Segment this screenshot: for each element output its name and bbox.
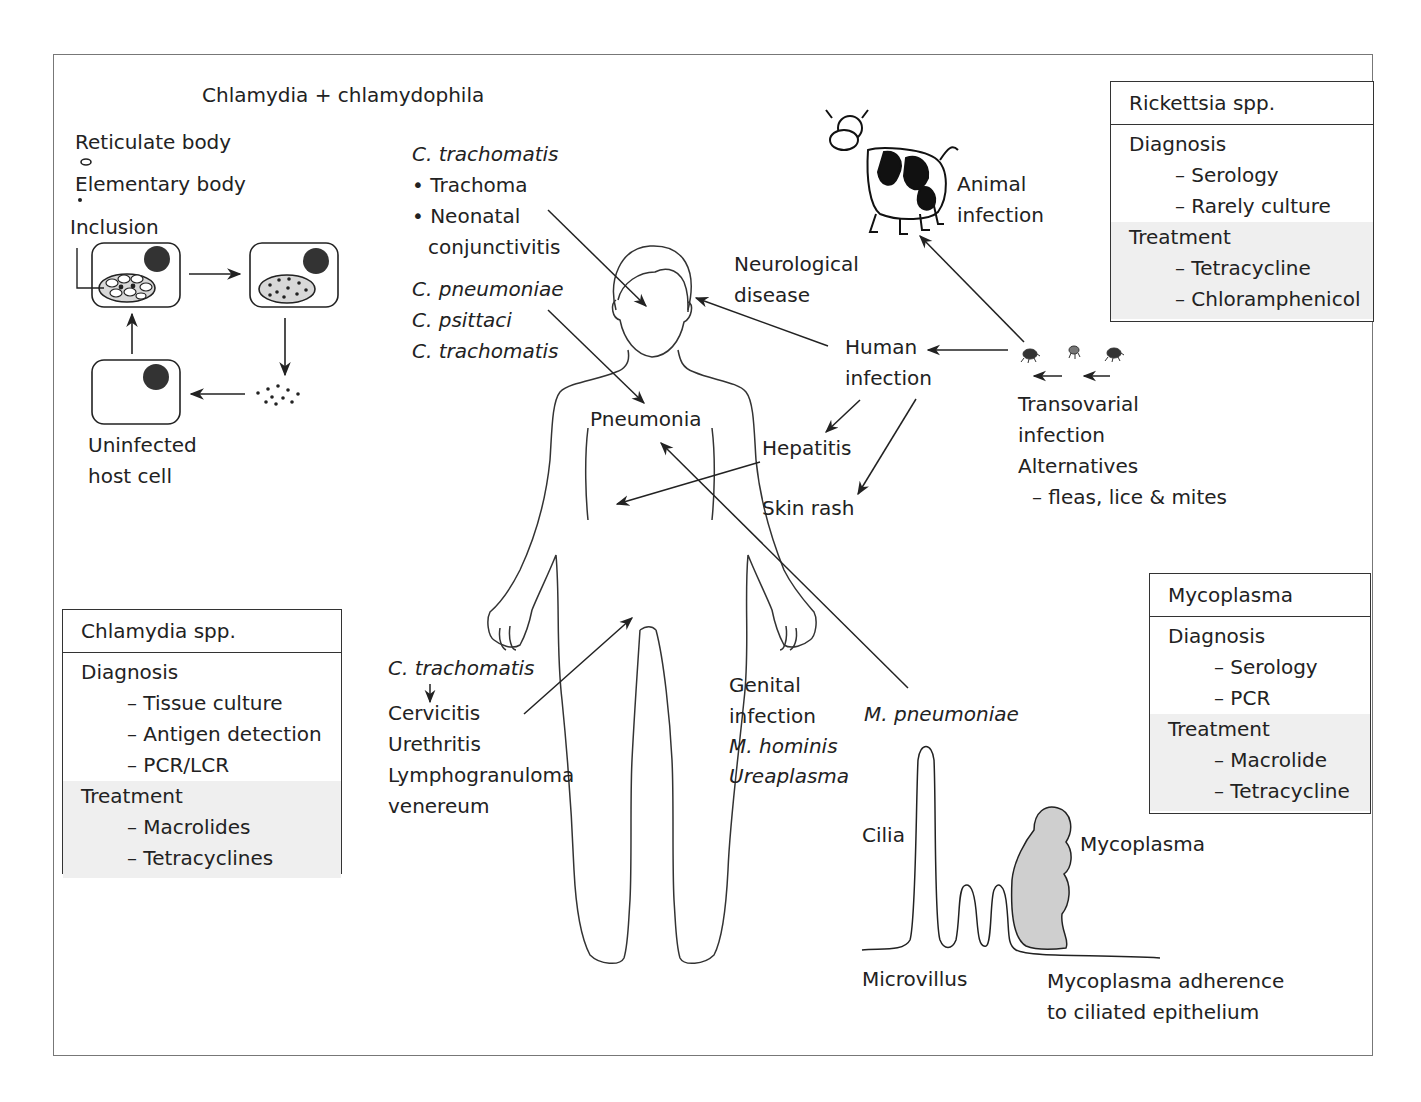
ureaplasma-label: Ureaplasma [729, 761, 849, 792]
urethritis-label: Urethritis [388, 729, 481, 760]
adherence-caption-2: to ciliated epithelium [1047, 997, 1259, 1028]
louse-icon [1069, 346, 1080, 359]
c-trachomatis-eye: C. trachomatis [412, 139, 558, 170]
trachoma-label: • Trachoma [412, 170, 528, 201]
diagnosis-section: Diagnosis – Serology – Rarely culture [1111, 125, 1373, 222]
rickettsia-info-box: Rickettsia spp. Diagnosis – Serology – R… [1110, 81, 1374, 322]
reticulate-body-symbol [81, 159, 91, 165]
treatment-heading: Treatment [81, 781, 337, 812]
diagnosis-item: – Antigen detection [81, 719, 337, 750]
mycoplasma-label: Mycoplasma [1080, 829, 1205, 860]
tick-icon [1021, 349, 1040, 363]
inclusion-label: Inclusion [70, 212, 159, 243]
skin-rash-label: Skin rash [762, 493, 854, 524]
vectors-label: – fleas, lice & mites [1032, 482, 1227, 513]
animal-infection-label-1: Animal [957, 169, 1026, 200]
diagnosis-item: – PCR [1168, 683, 1366, 714]
human-infection-label-1: Human [845, 332, 917, 363]
lymphogranuloma-label: Lymphogranuloma [388, 760, 574, 791]
neurological-label-1: Neurological [734, 249, 859, 280]
hepatitis-label: Hepatitis [762, 433, 852, 464]
treatment-item: – Tetracycline [1129, 253, 1369, 284]
treatment-section: Treatment – Macrolides – Tetracyclines [63, 781, 341, 878]
chlamydia-title: Chlamydia + chlamydophila [202, 80, 484, 111]
box-title: Mycoplasma [1150, 574, 1370, 617]
diagnosis-item: – Rarely culture [1129, 191, 1369, 222]
diagnosis-heading: Diagnosis [1129, 129, 1369, 160]
genital-infection-label-2: infection [729, 701, 816, 732]
treatment-section: Treatment – Macrolide – Tetracycline [1150, 714, 1370, 811]
neonatal-label: • Neonatal [412, 201, 520, 232]
genital-infection-label-1: Genital [729, 670, 801, 701]
conjunctivitis-label: conjunctivitis [428, 232, 560, 263]
diagnosis-item: – Tissue culture [81, 688, 337, 719]
human-infection-label-2: infection [845, 363, 932, 394]
adherence-caption-1: Mycoplasma adherence [1047, 966, 1284, 997]
cervicitis-label: Cervicitis [388, 698, 480, 729]
alternatives-label: Alternatives [1018, 451, 1138, 482]
diagnosis-item: – PCR/LCR [81, 750, 337, 781]
diagnosis-item: – Serology [1168, 652, 1366, 683]
uninfected-host-cell [92, 360, 180, 424]
treatment-heading: Treatment [1129, 222, 1369, 253]
diagnosis-item: – Serology [1129, 160, 1369, 191]
chlamydia-info-box: Chlamydia spp. Diagnosis – Tissue cultur… [62, 609, 342, 874]
treatment-item: – Tetracyclines [81, 843, 337, 874]
transovarial-label-1: Transovarial [1018, 389, 1139, 420]
arthropod-vectors [1021, 346, 1124, 363]
inclusion-pointer [77, 248, 104, 288]
diagnosis-heading: Diagnosis [1168, 621, 1366, 652]
uninfected-label-1: Uninfected [88, 430, 197, 461]
cow-icon [826, 110, 958, 234]
treatment-item: – Tetracycline [1168, 776, 1366, 807]
treatment-heading: Treatment [1168, 714, 1366, 745]
c-psittaci-label: C. psittaci [412, 305, 512, 336]
c-trachomatis-lung: C. trachomatis [412, 336, 558, 367]
diagnosis-section: Diagnosis – Serology – PCR [1150, 617, 1370, 714]
diagnosis-section: Diagnosis – Tissue culture – Antigen det… [63, 653, 341, 781]
pneumonia-label: Pneumonia [590, 404, 702, 435]
animal-infection-label-2: infection [957, 200, 1044, 231]
treatment-section: Treatment – Tetracycline – Chloramphenic… [1111, 222, 1373, 319]
diagnosis-heading: Diagnosis [81, 657, 337, 688]
treatment-item: – Macrolide [1168, 745, 1366, 776]
treatment-item: – Chloramphenicol [1129, 284, 1369, 315]
microvillus-label: Microvillus [862, 964, 967, 995]
mycoplasma-organism [1012, 807, 1071, 949]
reticulate-body-label: Reticulate body [75, 127, 231, 158]
treatment-item: – Macrolides [81, 812, 337, 843]
released-elementary-bodies [256, 384, 300, 406]
mycoplasma-info-box: Mycoplasma Diagnosis – Serology – PCR Tr… [1149, 573, 1371, 814]
transovarial-label-2: infection [1018, 420, 1105, 451]
c-trachomatis-genital: C. trachomatis [388, 653, 534, 684]
m-pneumoniae-label: M. pneumoniae [864, 699, 1019, 730]
elementary-body-label: Elementary body [75, 169, 246, 200]
flea-icon [1105, 348, 1124, 362]
box-title: Rickettsia spp. [1111, 82, 1373, 125]
uninfected-label-2: host cell [88, 461, 172, 492]
c-pneumoniae-label: C. pneumoniae [412, 274, 564, 305]
neurological-label-2: disease [734, 280, 810, 311]
m-hominis-label: M. hominis [729, 731, 838, 762]
venereum-label: venereum [388, 791, 489, 822]
cilia-label: Cilia [862, 820, 905, 851]
box-title: Chlamydia spp. [63, 610, 341, 653]
nucleus [144, 246, 170, 272]
